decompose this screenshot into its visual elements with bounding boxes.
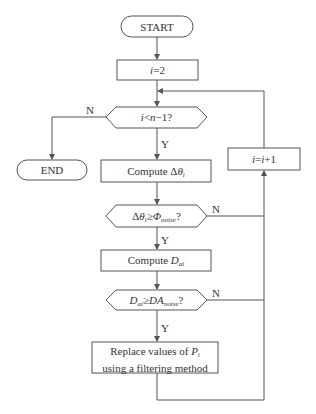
replace-line2: using a filtering method — [92, 362, 218, 375]
cond3-da-sub: noise — [164, 300, 179, 308]
increment-label: i=i+1 — [228, 153, 300, 165]
cond2-no-label: N — [212, 203, 220, 215]
replace-label: Replace values of Pi using a filtering m… — [92, 345, 218, 375]
cond2-label: Δθi≥Φnoise? — [106, 210, 207, 226]
inc-rest: +1 — [264, 153, 276, 165]
cond2-phi: Φ — [153, 210, 161, 222]
replace-p: P — [191, 345, 198, 357]
theta-subscript: i — [183, 171, 185, 179]
cond1-no-label: N — [86, 104, 94, 116]
cond2-yes-label: Y — [161, 234, 169, 246]
start-label: START — [121, 21, 193, 33]
compute-dai-label: Compute Dai — [101, 254, 211, 270]
replace-p-sub: i — [198, 351, 200, 359]
cond3-q: ? — [179, 294, 184, 306]
dai-subscript: ai — [179, 260, 184, 268]
cond2-q: ? — [176, 210, 181, 222]
edge-cond1-no — [52, 117, 106, 159]
cond1-yes-label: Y — [161, 138, 169, 150]
init-rest: =2 — [153, 64, 165, 76]
cond3-da: DA — [149, 294, 164, 306]
dai-symbol: D — [171, 254, 179, 266]
cond1-label: i<n−1? — [106, 111, 207, 123]
replace-line1: Replace values of Pi — [92, 345, 218, 362]
cond2-phi-sub: noise — [161, 216, 176, 224]
compute-theta-prefix: Compute Δ — [127, 165, 177, 177]
compute-dai-prefix: Compute — [128, 254, 171, 266]
replace-prefix: Replace values of — [110, 345, 191, 357]
cond1-rest: −1? — [156, 111, 173, 123]
init-label: i=2 — [117, 64, 198, 76]
cond3-yes-label: Y — [161, 322, 169, 334]
cond3-no-label: N — [212, 287, 220, 299]
end-label: END — [17, 164, 87, 176]
cond3-label: Dai≥DAnoise? — [106, 294, 207, 310]
compute-theta-label: Compute Δθi — [101, 165, 211, 181]
cond3-d: D — [130, 294, 138, 306]
